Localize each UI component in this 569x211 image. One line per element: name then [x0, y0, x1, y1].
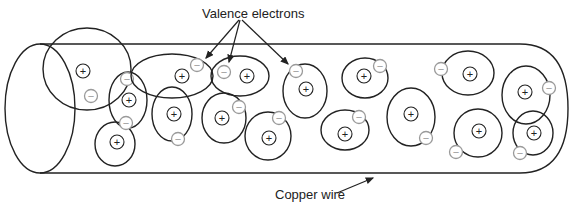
atom: +−: [283, 64, 327, 118]
atom: +−: [43, 28, 131, 110]
minus-sign: −: [377, 60, 383, 72]
wire-end-ellipse: [5, 44, 75, 173]
minus-sign: −: [356, 111, 362, 123]
minus-sign: −: [293, 65, 299, 77]
atom: +−: [211, 56, 269, 96]
atom: +−: [95, 117, 135, 167]
atom: +−: [513, 111, 553, 160]
atom: +−: [342, 58, 388, 98]
minus-sign: −: [453, 146, 459, 158]
plus-sign: +: [467, 68, 473, 80]
minus-sign: −: [194, 59, 200, 71]
minus-sign: −: [175, 133, 181, 145]
plus-sign: +: [80, 65, 86, 77]
plus-sign: +: [179, 70, 185, 82]
valence-arrow: [206, 20, 239, 58]
atom: +−: [502, 66, 556, 124]
plus-sign: +: [361, 70, 367, 82]
minus-sign: −: [517, 147, 523, 159]
atom: +−: [387, 88, 435, 146]
atom: +−: [450, 109, 503, 159]
plus-sign: +: [408, 108, 414, 120]
minus-sign: −: [546, 82, 552, 94]
valence-electrons-label: Valence electrons: [202, 6, 304, 21]
minus-sign: −: [123, 117, 129, 129]
plus-sign: +: [244, 70, 250, 82]
minus-sign: −: [276, 112, 282, 124]
minus-sign: −: [221, 66, 227, 78]
atoms-layer: +−+−+−+−+−+−+−+−+−+−+−+−+−+−+−+−: [43, 28, 556, 166]
atom: +−: [152, 87, 192, 146]
plus-sign: +: [522, 86, 528, 98]
plus-sign: +: [342, 128, 348, 140]
minus-sign: −: [124, 73, 130, 85]
plus-sign: +: [219, 112, 225, 124]
atom: +−: [435, 51, 495, 95]
minus-sign: −: [88, 90, 94, 102]
plus-sign: +: [171, 108, 177, 120]
minus-sign: −: [423, 132, 429, 144]
plus-sign: +: [476, 125, 482, 137]
plus-sign: +: [303, 83, 309, 95]
copper-wire-label: Copper wire: [275, 187, 345, 202]
atom: +−: [321, 110, 369, 150]
plus-sign: +: [114, 136, 120, 148]
minus-sign: −: [438, 63, 444, 75]
plus-sign: +: [266, 132, 272, 144]
plus-sign: +: [126, 94, 132, 106]
atom: +−: [202, 93, 246, 143]
atom: +−: [245, 112, 291, 161]
minus-sign: −: [236, 101, 242, 113]
arrows-layer: [206, 20, 373, 193]
atom: +−: [131, 54, 213, 98]
copper-wire-diagram: +−+−+−+−+−+−+−+−+−+−+−+−+−+−+−+−: [0, 0, 569, 211]
plus-sign: +: [531, 127, 537, 139]
